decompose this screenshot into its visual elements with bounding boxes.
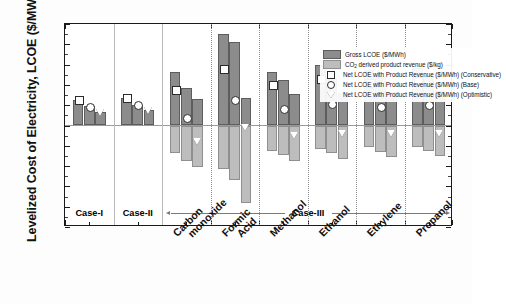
bar-product-revenue <box>375 126 386 153</box>
marker-net-lcoe-base <box>86 103 95 112</box>
bar-product-revenue <box>423 126 434 152</box>
marker-net-lcoe-conservative <box>220 65 229 74</box>
y-tick <box>446 44 451 45</box>
y-tick-minor <box>65 217 68 218</box>
y-tick-minor <box>65 75 68 76</box>
triangle-marker <box>323 92 339 98</box>
marker-net-lcoe-base <box>183 114 192 123</box>
legend-label: Gross LCOE ($/MWh) <box>345 51 406 58</box>
bar-product-revenue <box>315 126 326 150</box>
y-tick-minor <box>448 217 451 218</box>
legend-item-optimistic: Net LCOE with Product Revenue ($/MWh) (O… <box>323 90 506 99</box>
bar-product-revenue <box>241 126 252 203</box>
y-tick <box>65 207 70 208</box>
case-3-arrowhead-left <box>166 211 170 215</box>
case-separator <box>114 24 115 225</box>
legend-label: Net LCOE with Product Revenue ($/MWh) (C… <box>343 71 501 78</box>
y-axis-title: Levelized Cost of Electricity, LCOE ($/M… <box>25 0 39 242</box>
bar-product-revenue <box>170 126 181 154</box>
chart-legend: Gross LCOE ($/MWh)CO2 derived product re… <box>320 48 506 102</box>
triangle-marker-glyph <box>327 92 335 98</box>
y-tick <box>65 227 70 228</box>
marker-net-lcoe-optimistic <box>193 138 201 145</box>
bar-product-revenue <box>412 126 423 147</box>
bar-product-revenue <box>218 126 229 170</box>
y-tick-minor <box>65 156 68 157</box>
marker-net-lcoe-optimistic <box>338 130 346 137</box>
y-tick-minor <box>65 197 68 198</box>
marker-net-lcoe-optimistic <box>387 130 395 137</box>
y-tick <box>446 24 451 25</box>
x-tick <box>65 220 66 225</box>
marker-net-lcoe-base <box>280 105 289 114</box>
product-separator <box>259 24 260 225</box>
marker-net-lcoe-optimistic <box>144 107 152 114</box>
circle-marker <box>323 81 339 89</box>
marker-net-lcoe-optimistic <box>96 109 104 116</box>
y-tick <box>65 166 70 167</box>
y-tick-minor <box>65 176 68 177</box>
legend-item-revenue: CO2 derived product revenue ($/kg) <box>323 60 506 69</box>
bar-gross-lcoe <box>267 72 278 126</box>
marker-net-lcoe-optimistic <box>241 124 249 131</box>
bar-gross-lcoe <box>289 94 300 126</box>
x-tick <box>452 24 453 29</box>
y-tick <box>446 227 451 228</box>
y-tick <box>446 186 451 187</box>
bar-product-revenue <box>326 126 337 154</box>
marker-net-lcoe-conservative <box>75 96 84 105</box>
y-tick-minor <box>65 136 68 137</box>
case-label-1: Case-I <box>75 208 103 218</box>
marker-net-lcoe-conservative <box>269 81 278 90</box>
plot-area: Gross LCOE ($/MWh)CO2 derived product re… <box>64 23 452 226</box>
legend-item-gross: Gross LCOE ($/MWh) <box>323 50 506 59</box>
square-marker-glyph <box>327 71 335 79</box>
marker-net-lcoe-conservative <box>172 86 181 95</box>
y-tick-minor <box>448 136 451 137</box>
x-tick <box>65 24 66 29</box>
revenue-swatch <box>323 60 341 69</box>
bar-product-revenue <box>229 126 240 181</box>
marker-net-lcoe-conservative <box>123 94 132 103</box>
x-tick-minor <box>138 222 139 225</box>
product-separator <box>308 24 309 225</box>
bar-gross-lcoe <box>218 34 229 125</box>
y-tick <box>65 85 70 86</box>
legend-label: CO2 derived product revenue ($/kg) <box>345 61 443 69</box>
bar-product-revenue <box>278 126 289 156</box>
bar-gross-lcoe <box>241 98 252 126</box>
y-tick <box>446 126 451 127</box>
y-tick-minor <box>448 197 451 198</box>
bar-gross-lcoe <box>278 80 289 125</box>
marker-net-lcoe-optimistic <box>435 130 443 137</box>
bar-gross-lcoe <box>170 72 181 126</box>
y-tick-minor <box>448 115 451 116</box>
bar-gross-lcoe <box>192 99 203 125</box>
y-tick <box>65 44 70 45</box>
marker-net-lcoe-optimistic <box>290 132 298 139</box>
bar-product-revenue <box>364 126 375 148</box>
y-tick <box>446 105 451 106</box>
case-separator <box>162 24 163 225</box>
marker-net-lcoe-base <box>377 103 386 112</box>
bar-product-revenue <box>267 126 278 151</box>
gross-swatch <box>323 50 341 59</box>
y-tick <box>65 186 70 187</box>
bar-gross-lcoe <box>229 42 240 125</box>
legend-item-base: Net LCOE with Product Revenue ($/MWh) (B… <box>323 80 506 89</box>
y-tick-minor <box>65 34 68 35</box>
y-tick <box>65 126 70 127</box>
square-marker <box>323 71 339 79</box>
circle-marker-glyph <box>327 81 335 89</box>
case-label-2: Case-II <box>123 208 153 218</box>
y-tick-minor <box>448 176 451 177</box>
y-tick-minor <box>65 54 68 55</box>
y-tick <box>65 146 70 147</box>
y-tick-minor <box>65 115 68 116</box>
legend-label: Net LCOE with Product Revenue ($/MWh) (O… <box>343 91 492 98</box>
bar-product-revenue <box>192 126 203 168</box>
legend-label: Net LCOE with Product Revenue ($/MWh) (B… <box>343 81 479 88</box>
x-tick-minor <box>89 222 90 225</box>
y-tick-minor <box>65 95 68 96</box>
